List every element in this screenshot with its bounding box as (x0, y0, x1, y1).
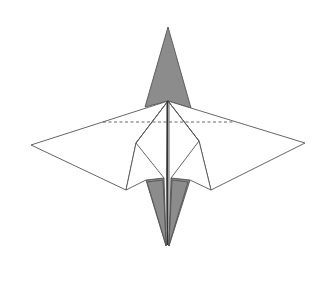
origami-diagram (0, 0, 328, 287)
origami-figure (0, 0, 328, 287)
lower-point-left-visible (147, 180, 166, 245)
lower-point-right-visible (169, 180, 188, 245)
top-point (145, 27, 191, 108)
